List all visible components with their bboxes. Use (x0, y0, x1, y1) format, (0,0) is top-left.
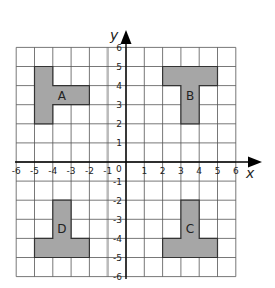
coordinate-grid-diagram: ABCD x y 0 -6-5-4-3-2-1123456654321-1-2-… (0, 0, 275, 288)
y-tick-label: -3 (113, 215, 122, 225)
y-tick-label: -2 (113, 196, 122, 206)
y-tick-label: 3 (116, 100, 122, 110)
shape-label-c: C (186, 222, 194, 236)
y-tick-label: 1 (116, 138, 122, 148)
x-tick-label: 6 (233, 166, 239, 176)
y-axis-arrow-icon (121, 30, 132, 44)
x-axis-label: x (245, 165, 255, 181)
x-tick-label: -6 (12, 166, 21, 176)
x-tick-label: 3 (178, 166, 184, 176)
x-tick-label: -1 (103, 166, 112, 176)
y-tick-label: 2 (116, 119, 122, 129)
origin-label: 0 (116, 164, 122, 174)
y-tick-label: 5 (116, 62, 122, 72)
y-tick-label: -1 (113, 177, 122, 187)
x-tick-label: 4 (196, 166, 202, 176)
shape-label-d: D (57, 222, 66, 236)
shape-label-a: A (58, 89, 67, 103)
y-tick-label: -6 (113, 272, 122, 282)
x-tick-label: -3 (67, 166, 76, 176)
y-axis-label: y (109, 27, 119, 43)
shape-label-b: B (186, 89, 194, 103)
x-tick-label: 2 (160, 166, 166, 176)
x-tick-label: 5 (215, 166, 221, 176)
x-tick-label: 1 (141, 166, 147, 176)
y-tick-label: 6 (116, 43, 122, 53)
x-tick-label: -2 (85, 166, 94, 176)
x-tick-label: -4 (48, 166, 57, 176)
y-tick-label: -4 (113, 234, 122, 244)
x-tick-label: -5 (30, 166, 39, 176)
y-tick-label: 4 (116, 81, 122, 91)
y-tick-label: -5 (113, 253, 122, 263)
